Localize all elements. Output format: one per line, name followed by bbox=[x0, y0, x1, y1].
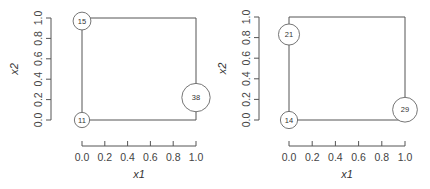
y-axis-title: x2 bbox=[216, 63, 228, 76]
data-point: 29 bbox=[393, 97, 418, 122]
y-tick-label: 0.8 bbox=[240, 30, 252, 45]
x-tick-label: 0.0 bbox=[282, 151, 297, 163]
y-tick-label: 0.2 bbox=[32, 92, 44, 107]
x-tick-label: 1.0 bbox=[398, 151, 413, 163]
data-point: 21 bbox=[278, 24, 299, 45]
chart-canvas: 0.00.20.40.60.81.0x20.00.20.40.60.81.0x1… bbox=[0, 0, 430, 189]
y-tick-label: 1.0 bbox=[32, 11, 44, 26]
x-axis-title: x1 bbox=[132, 168, 145, 180]
x-axis-title: x1 bbox=[340, 168, 353, 180]
y-axis-title: x2 bbox=[8, 63, 20, 76]
y-tick-label: 0.8 bbox=[32, 31, 44, 46]
plot-frame bbox=[289, 17, 405, 120]
y-tick-label: 0.2 bbox=[240, 92, 252, 107]
point-label: 11 bbox=[78, 116, 86, 125]
x-tick-label: 0.6 bbox=[351, 151, 366, 163]
point-label: 15 bbox=[78, 17, 86, 26]
plot-panel-1: 0.00.20.40.60.81.0x20.00.20.40.60.81.0x1… bbox=[8, 11, 210, 180]
data-point: 15 bbox=[73, 12, 91, 30]
data-point: 14 bbox=[280, 111, 297, 128]
y-tick-label: 0.6 bbox=[240, 51, 252, 66]
point-label: 21 bbox=[285, 30, 293, 39]
y-axis: 0.00.20.40.60.81.0x2 bbox=[8, 11, 51, 128]
data-point: 38 bbox=[182, 83, 210, 111]
x-tick-label: 0.8 bbox=[166, 151, 181, 163]
y-tick-label: 0.0 bbox=[240, 113, 252, 128]
x-tick-label: 0.0 bbox=[75, 151, 90, 163]
x-tick-label: 0.4 bbox=[328, 151, 343, 163]
x-tick-label: 0.6 bbox=[143, 151, 158, 163]
point-label: 14 bbox=[285, 116, 293, 125]
point-label: 38 bbox=[192, 93, 200, 102]
y-tick-label: 0.4 bbox=[240, 71, 252, 86]
x-tick-label: 0.4 bbox=[120, 151, 135, 163]
y-tick-label: 0.0 bbox=[32, 113, 44, 128]
x-axis: 0.00.20.40.60.81.0x1 bbox=[75, 141, 204, 180]
y-tick-label: 1.0 bbox=[240, 10, 252, 25]
y-tick-label: 0.4 bbox=[32, 72, 44, 87]
plot-frame bbox=[82, 18, 196, 120]
y-axis: 0.00.20.40.60.81.0x2 bbox=[216, 10, 259, 128]
x-axis: 0.00.20.40.60.81.0x1 bbox=[282, 141, 413, 180]
x-tick-label: 0.8 bbox=[374, 151, 389, 163]
data-point: 11 bbox=[74, 112, 89, 127]
x-tick-label: 0.2 bbox=[97, 151, 112, 163]
y-tick-label: 0.6 bbox=[32, 51, 44, 66]
plot-panel-2: 0.00.20.40.60.81.0x20.00.20.40.60.81.0x1… bbox=[216, 10, 417, 180]
x-tick-label: 0.2 bbox=[305, 151, 320, 163]
x-tick-label: 1.0 bbox=[189, 151, 204, 163]
point-label: 29 bbox=[401, 105, 409, 114]
